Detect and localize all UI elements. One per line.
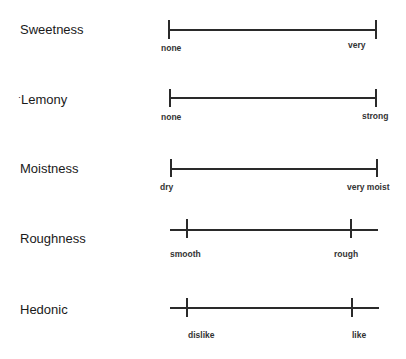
high-anchor-label: very	[348, 40, 366, 50]
attribute-label: Sweetness	[20, 22, 84, 37]
high-anchor-label: strong	[362, 111, 388, 121]
attribute-label: Roughness	[20, 231, 86, 246]
left-anchor-tick	[186, 219, 188, 238]
left-end-tick	[170, 159, 172, 177]
low-anchor-label: none	[161, 43, 181, 53]
scale-line[interactable]	[170, 168, 377, 170]
scale-line[interactable]	[170, 307, 379, 309]
high-anchor-label: very moist	[347, 182, 390, 192]
attribute-label-text: Lemony	[21, 92, 67, 107]
high-anchor-label: rough	[334, 249, 358, 259]
right-end-tick	[375, 20, 377, 39]
scale-line[interactable]	[169, 97, 377, 99]
low-anchor-label: none	[161, 112, 181, 122]
left-end-tick	[168, 20, 170, 39]
scale-line[interactable]	[170, 229, 378, 231]
right-end-tick	[375, 89, 377, 107]
low-anchor-label: dry	[160, 182, 173, 192]
attribute-label: ·Lemony	[18, 92, 67, 107]
low-anchor-label: dislike	[188, 330, 214, 340]
high-anchor-label: like	[352, 330, 366, 340]
right-end-tick	[376, 159, 378, 177]
left-anchor-tick	[186, 298, 188, 317]
attribute-label: Hedonic	[20, 302, 68, 317]
left-end-tick	[169, 89, 171, 107]
attribute-label: Moistness	[20, 161, 79, 176]
low-anchor-label: smooth	[170, 249, 201, 259]
scale-line[interactable]	[168, 29, 377, 31]
right-anchor-tick	[351, 298, 353, 317]
right-anchor-tick	[350, 219, 352, 238]
